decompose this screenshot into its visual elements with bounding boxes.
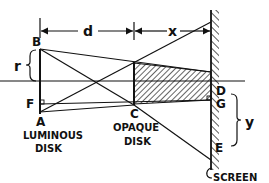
point-b-label: B [32, 35, 41, 49]
shadow-diagram: d x r y B F A C D G E LUMINOUS DISK OPAQ… [0, 0, 269, 183]
dimension-y-label: y [245, 114, 254, 130]
point-a-label: A [36, 115, 46, 129]
point-e-label: E [215, 141, 223, 155]
dimension-r-label: r [14, 58, 21, 74]
opaque-disk-label-2: DISK [124, 136, 152, 147]
ray-b-to-c [40, 49, 134, 105]
luminous-disk-label-2: DISK [35, 143, 63, 154]
dimension-d-label: d [83, 23, 93, 39]
r-brace [26, 50, 36, 81]
luminous-disk-label-1: LUMINOUS [23, 130, 83, 141]
point-f-label: F [26, 97, 34, 111]
point-g-label: G [216, 97, 226, 111]
umbra-region [134, 63, 211, 104]
y-brace [231, 94, 241, 146]
screen-label: SCREEN [213, 172, 257, 183]
ray-a-to-c [40, 105, 134, 112]
dimension-x-label: x [168, 23, 177, 39]
point-d-label: D [216, 84, 226, 98]
ray-b-to-top [40, 49, 211, 72]
point-c-label: C [130, 107, 139, 121]
opaque-disk-label-1: OPAQUE [113, 122, 159, 133]
